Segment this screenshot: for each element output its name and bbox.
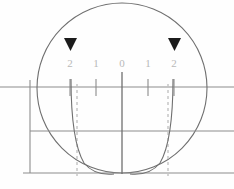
scale-label-plus-1: 1 bbox=[140, 58, 156, 69]
scale-label-minus-1: 1 bbox=[88, 58, 104, 69]
scale-label-minus-2: 2 bbox=[62, 58, 78, 69]
scope-diagram-canvas bbox=[0, 0, 234, 189]
scale-label-zero: 0 bbox=[114, 58, 130, 69]
right-aim-marker-triangle-icon bbox=[168, 38, 181, 51]
left-aim-marker-triangle-icon bbox=[64, 38, 77, 51]
scale-label-plus-2: 2 bbox=[166, 58, 182, 69]
scope-figure: 2 1 0 1 2 bbox=[0, 0, 234, 189]
